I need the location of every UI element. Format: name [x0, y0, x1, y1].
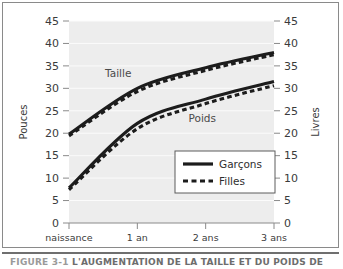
legend-label-filles: Filles: [219, 175, 245, 187]
y-tick-label-left: 40: [45, 37, 59, 50]
y-tick-label-left: 0: [52, 217, 59, 230]
y-axis-title-left: Pouces: [18, 105, 29, 140]
caption-title: L'AUGMENTATION DE LA TAILLE ET DU POIDS …: [72, 257, 323, 267]
y-tick-label-left: 20: [45, 127, 59, 140]
y-tick-label-left: 45: [45, 15, 59, 28]
y-tick-label-right: 10: [284, 172, 298, 185]
x-tick-label: 2 ans: [193, 232, 219, 243]
y-tick-label-right: 15: [284, 149, 298, 162]
y-tick-label-right: 5: [284, 194, 291, 207]
y-tick-label-right: 0: [284, 217, 291, 230]
figure-root: 051015202530354045 051015202530354045 na…: [0, 0, 343, 269]
y-tick-label-left: 25: [45, 105, 59, 118]
figure-caption: FIGURE 3-1 L'AUGMENTATION DE LA TAILLE E…: [2, 252, 339, 269]
y-tick-label-left: 10: [45, 172, 59, 185]
x-tick-label: naissance: [45, 232, 92, 243]
series-annotation: Poids: [189, 112, 216, 124]
caption-number: FIGURE 3-1: [10, 257, 69, 267]
y-tick-label-right: 25: [284, 105, 298, 118]
chart-legend: Garçons Filles: [175, 151, 275, 193]
y-tick-label-right: 20: [284, 127, 298, 140]
caption-divider: [2, 252, 339, 254]
growth-chart: 051015202530354045 051015202530354045 na…: [3, 3, 340, 249]
y-tick-label-left: 15: [45, 149, 59, 162]
y-axis-title-right: Livres: [310, 107, 321, 137]
y-tick-label-left: 30: [45, 82, 59, 95]
chart-panel: 051015202530354045 051015202530354045 na…: [2, 2, 339, 248]
x-tick-label: 1 an: [127, 232, 148, 243]
y-axis-ticks-left: 051015202530354045: [45, 15, 69, 230]
x-axis-ticks: naissance1 an2 ans3 ans: [45, 223, 287, 243]
caption-line: FIGURE 3-1 L'AUGMENTATION DE LA TAILLE E…: [10, 257, 323, 267]
x-tick-label: 3 ans: [261, 232, 287, 243]
y-tick-label-left: 35: [45, 60, 59, 73]
y-tick-label-right: 35: [284, 60, 298, 73]
y-tick-label-right: 40: [284, 37, 298, 50]
series-annotation: Taille: [104, 67, 131, 79]
y-tick-label-left: 5: [52, 194, 59, 207]
y-axis-ticks-right: 051015202530354045: [274, 15, 298, 230]
y-tick-label-right: 45: [284, 15, 298, 28]
y-tick-label-right: 30: [284, 82, 298, 95]
legend-label-garcons: Garçons: [219, 158, 262, 170]
chart-inner: 051015202530354045 051015202530354045 na…: [3, 3, 338, 247]
